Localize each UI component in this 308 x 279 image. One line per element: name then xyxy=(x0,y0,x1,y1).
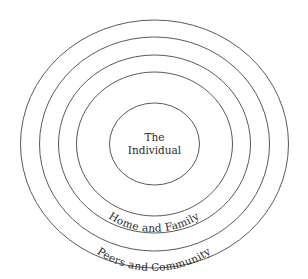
concentric-circles-diagram: The Individual Home and Family Peers and… xyxy=(0,0,308,279)
ring-label-peers-and-community-path: Peers and Community xyxy=(95,245,212,273)
diagram-canvas: The Individual Home and Family Peers and… xyxy=(0,0,308,279)
ring-label-peers-and-community: Peers and Community xyxy=(95,245,212,273)
ring-label-home-and-family: Home and Family xyxy=(107,209,201,233)
center-label-line-1: The xyxy=(145,131,165,143)
ring-label-home-and-family-path: Home and Family xyxy=(107,209,201,233)
center-label-line-2: Individual xyxy=(128,144,182,156)
